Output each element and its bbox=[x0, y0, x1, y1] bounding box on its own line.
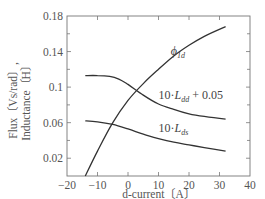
chart: −20−100102030400.020.060.10.140.18 ϕ1d 1… bbox=[0, 0, 265, 199]
ticks-layer: −20−100102030400.020.060.10.140.18 bbox=[43, 10, 256, 191]
label-10-ldd-plus-005: 10·Ldd+ 0.05 bbox=[159, 88, 223, 104]
x-tick-label: 30 bbox=[214, 179, 226, 191]
y-tick-label: 0.02 bbox=[43, 152, 63, 164]
y-axis-label-line-1: Flux〔Vs/rad〕, bbox=[7, 62, 20, 139]
y-axis-label-line-2: Inductance〔H〕 bbox=[20, 60, 32, 141]
x-tick-label: 40 bbox=[244, 179, 256, 191]
x-tick-label: −10 bbox=[89, 179, 107, 191]
y-tick-label: 0.18 bbox=[43, 10, 63, 22]
x-axis-label: d-current〔A〕 bbox=[122, 188, 194, 199]
label-phi-1d: ϕ1d bbox=[171, 44, 186, 60]
x-tick-label: −20 bbox=[58, 179, 76, 191]
y-tick-label: 0.14 bbox=[43, 46, 63, 58]
label-10-lds: 10·Lds bbox=[159, 121, 189, 137]
y-tick-label: 0.06 bbox=[43, 117, 63, 129]
y-axis-label: Flux〔Vs/rad〕, Inductance〔H〕 bbox=[7, 60, 32, 141]
series-10-l-ds bbox=[85, 121, 225, 151]
y-tick-label: 0.1 bbox=[49, 81, 64, 93]
